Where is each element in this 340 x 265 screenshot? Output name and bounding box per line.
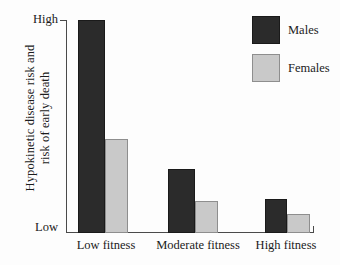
y-tick-label-high: High xyxy=(6,12,58,27)
legend-label-males: Males xyxy=(288,23,319,38)
x-axis-category-label-high-fitness: High fitness xyxy=(240,238,332,253)
y-axis-label: Hypokinetic disease risk and risk of ear… xyxy=(17,18,59,218)
bar-females-low-fitness xyxy=(105,139,128,233)
legend-swatch-females-icon xyxy=(252,54,280,82)
bar-chart: Hypokinetic disease risk and risk of ear… xyxy=(0,0,340,265)
y-tick-label-low: Low xyxy=(6,220,58,235)
legend-label-females: Females xyxy=(288,61,330,76)
legend-item-females: Females xyxy=(252,54,330,82)
y-axis-label-line-2: risk of early death xyxy=(38,72,53,165)
legend-item-males: Males xyxy=(252,16,330,44)
x-axis-category-label-low-fitness: Low fitness xyxy=(60,238,152,253)
bar-males-moderate-fitness xyxy=(168,169,195,233)
y-axis-label-line-1: Hypokinetic disease risk and xyxy=(23,45,38,192)
bar-males-low-fitness xyxy=(78,20,105,233)
legend-swatch-males-icon xyxy=(252,16,280,44)
x-axis-category-label-moderate-fitness: Moderate fitness xyxy=(144,238,252,253)
bar-females-high-fitness xyxy=(287,214,310,233)
bar-males-high-fitness xyxy=(265,199,287,233)
legend: Males Females xyxy=(252,16,330,82)
bar-females-moderate-fitness xyxy=(195,201,218,233)
